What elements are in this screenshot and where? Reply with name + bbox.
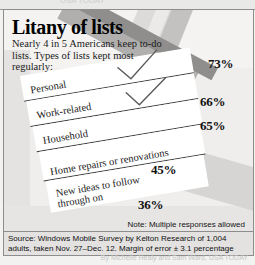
value-label-home-repairs: 45% xyxy=(151,162,176,178)
page-title: Litany of lists xyxy=(12,16,123,39)
top-strip-ghost-text: USA TODAY xyxy=(60,0,105,5)
source-text: Source: Windows Mobile Survey by Kelton … xyxy=(8,234,250,256)
value-label-work-related: 66% xyxy=(200,94,225,110)
list-item-label: Household xyxy=(42,128,89,146)
deck-text: Nearly 4 in 5 Americans keep to-do lists… xyxy=(12,38,168,73)
list-card: Personal Work-related Household Home rep… xyxy=(20,48,214,222)
chart-note: Note: Multiple responses allowed xyxy=(128,220,245,229)
value-label-new-ideas: 36% xyxy=(138,197,163,213)
credit-line: By Michelle Healy and Sam Ward, USA TODA… xyxy=(0,254,252,261)
value-label-personal: 73% xyxy=(208,56,233,72)
value-label-household: 65% xyxy=(200,118,225,134)
list-item-label: Personal xyxy=(30,79,67,96)
infographic-screenshot: USA TODAY Personal Work-related Ho xyxy=(0,0,255,265)
graphic-frame: Personal Work-related Household Home rep… xyxy=(3,9,254,256)
source-box: Source: Windows Mobile Survey by Kelton … xyxy=(4,231,253,255)
